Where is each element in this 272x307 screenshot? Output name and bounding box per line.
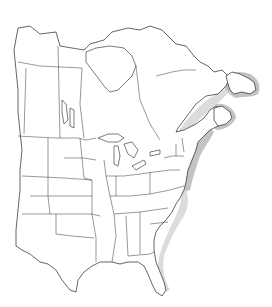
range-map: [0, 0, 272, 307]
